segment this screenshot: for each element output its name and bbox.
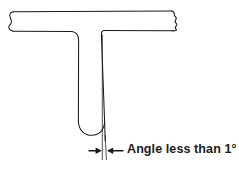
part-outline-group xyxy=(9,11,177,141)
flange-top-edge xyxy=(14,11,172,12)
angle-annotation-label: Angle less than 1° xyxy=(127,141,237,157)
technical-drawing-figure: Angle less than 1° xyxy=(0,0,239,169)
web-left-side xyxy=(72,32,79,121)
flange-left-break-symbol xyxy=(9,12,14,31)
angle-annotation-text: Angle less than 1 xyxy=(127,142,232,156)
web-bottom-u-curve xyxy=(78,121,104,135)
right-arrow-shaft xyxy=(113,150,124,152)
right-arrow-head xyxy=(107,147,113,154)
left-arrow-head xyxy=(96,147,102,154)
draft-line-extension xyxy=(105,135,106,160)
flange-right-break-symbol xyxy=(172,11,177,31)
degree-symbol: ° xyxy=(232,142,237,156)
